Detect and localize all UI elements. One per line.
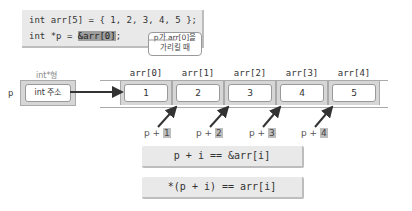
offset-arrow-icon-4	[315, 107, 332, 127]
formula-address: p + i == &arr[i]	[142, 146, 304, 168]
offset-arrow-icon-2	[210, 107, 228, 127]
offset-arrow-icon-1	[158, 107, 176, 127]
offset-arrow-icon-3	[263, 107, 280, 127]
formula-value: *(p + i) == arr[i]	[142, 177, 304, 199]
